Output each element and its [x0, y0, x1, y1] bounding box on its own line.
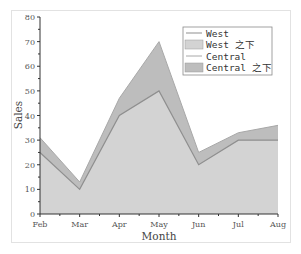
legend-label: Central 之下 — [206, 62, 272, 73]
x-tick-label: Feb — [33, 220, 48, 229]
legend-fill-swatch — [185, 40, 203, 49]
legend-fill-swatch — [185, 63, 203, 72]
x-tick-label: Jun — [191, 220, 206, 229]
west-area — [40, 91, 278, 214]
y-tick-label: 70 — [25, 38, 35, 47]
legend-label: Central — [206, 51, 246, 62]
x-axis-title: Month — [142, 230, 177, 242]
x-tick-label: Jul — [232, 220, 244, 229]
y-tick-label: 10 — [25, 185, 35, 194]
x-tick-label: Aug — [269, 220, 286, 229]
y-axis-title: Sales — [12, 101, 24, 129]
y-tick-label: 60 — [25, 62, 35, 71]
stacked-area-chart: 01020304050607080FebMarAprMayJunJulAug M… — [0, 0, 301, 254]
y-tick-label: 40 — [25, 112, 35, 121]
legend-label: West — [206, 28, 229, 39]
legend-label: West 之下 — [206, 39, 255, 50]
x-tick-label: Mar — [71, 220, 88, 229]
x-tick-label: May — [150, 220, 168, 229]
y-tick-label: 50 — [25, 87, 35, 96]
y-tick-label: 80 — [25, 13, 35, 22]
y-tick-label: 0 — [30, 210, 35, 219]
x-tick-label: Apr — [111, 220, 127, 229]
y-tick-label: 30 — [25, 136, 35, 145]
legend: WestWest 之下CentralCentral 之下 — [183, 27, 272, 75]
y-tick-label: 20 — [25, 161, 35, 170]
